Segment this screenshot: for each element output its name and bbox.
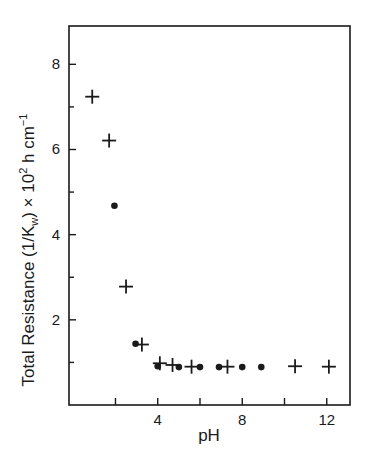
y-tick-label: 4 bbox=[52, 226, 60, 243]
dot-marker bbox=[132, 340, 139, 347]
x-tick-label: 8 bbox=[238, 411, 246, 428]
plus-marker bbox=[220, 360, 234, 374]
dot-marker bbox=[258, 364, 265, 371]
y-tick-label: 8 bbox=[52, 55, 60, 72]
x-tick-label: 4 bbox=[154, 411, 162, 428]
plus-marker bbox=[288, 359, 302, 373]
dot-marker bbox=[216, 364, 223, 371]
plus-marker bbox=[185, 360, 199, 374]
plus-marker bbox=[102, 134, 116, 148]
dot-marker bbox=[239, 364, 246, 371]
plot-frame bbox=[69, 26, 350, 405]
y-axis-ticks: 2468 bbox=[52, 55, 76, 362]
dot-marker bbox=[176, 364, 183, 371]
dot-marker bbox=[154, 363, 161, 370]
plus-marker bbox=[85, 90, 99, 104]
dot-marker bbox=[111, 202, 118, 209]
scatter-chart: 2468 4812 pH Total Resistance (1/Kw) × 1… bbox=[0, 0, 369, 472]
y-tick-label: 6 bbox=[52, 140, 60, 157]
plus-marker bbox=[119, 280, 133, 294]
y-axis-title: Total Resistance (1/Kw) × 102 h cm−1 bbox=[17, 114, 40, 387]
dot-marker bbox=[197, 364, 204, 371]
x-tick-label: 12 bbox=[318, 411, 335, 428]
plus-marker bbox=[322, 360, 336, 374]
data-points bbox=[85, 90, 336, 374]
y-tick-label: 2 bbox=[52, 311, 60, 328]
x-axis-title: pH bbox=[198, 426, 220, 445]
x-axis-ticks: 4812 bbox=[115, 398, 335, 428]
